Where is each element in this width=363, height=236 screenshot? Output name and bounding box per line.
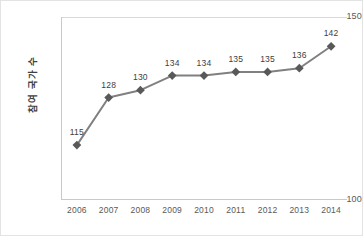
chart-container: 참여 국가 수 150 100 200620072008200920102011… <box>0 0 363 236</box>
x-axis-tick-2006: 2006 <box>60 205 94 215</box>
series-line-chart <box>1 1 363 236</box>
data-point-marker <box>136 86 145 95</box>
data-label-2013: 136 <box>281 50 317 60</box>
data-label-2011: 135 <box>218 54 254 64</box>
data-point-marker <box>263 68 272 77</box>
data-label-2010: 134 <box>186 58 222 68</box>
data-label-2008: 130 <box>122 72 158 82</box>
data-label-2009: 134 <box>154 58 190 68</box>
x-axis-tick-2011: 2011 <box>219 205 253 215</box>
x-axis-tick-2008: 2008 <box>123 205 157 215</box>
x-axis-tick-2012: 2012 <box>251 205 285 215</box>
data-label-2006: 115 <box>59 127 95 137</box>
x-axis-tick-2010: 2010 <box>187 205 221 215</box>
data-label-2014: 142 <box>313 28 349 38</box>
data-point-marker <box>200 71 209 80</box>
data-point-marker <box>231 68 240 77</box>
x-axis-tick-2013: 2013 <box>282 205 316 215</box>
x-axis-tick-2014: 2014 <box>314 205 348 215</box>
data-label-2012: 135 <box>250 54 286 64</box>
x-axis-tick-2007: 2007 <box>92 205 126 215</box>
data-point-marker <box>168 71 177 80</box>
data-label-2007: 128 <box>91 80 127 90</box>
x-axis-tick-2009: 2009 <box>155 205 189 215</box>
